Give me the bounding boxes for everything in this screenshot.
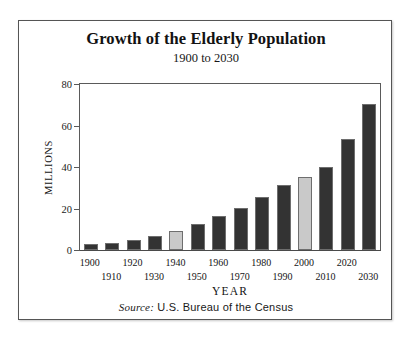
bar-1910 xyxy=(105,243,119,250)
source-label: Source: xyxy=(119,301,154,313)
x-axis-tick-label: 2010 xyxy=(315,271,335,282)
x-axis-title: YEAR xyxy=(79,285,381,297)
bar-2010 xyxy=(319,167,333,250)
x-axis-tick-label: 1980 xyxy=(251,257,271,268)
chart-subtitle: 1900 to 2030 xyxy=(19,51,393,66)
x-axis-tick-label: 1950 xyxy=(187,271,207,282)
y-axis-tick-label: 20 xyxy=(62,203,73,214)
x-axis-tick-label: 1970 xyxy=(230,271,250,282)
y-axis-title: MILLIONS xyxy=(41,83,55,251)
x-axis-tick-label: 1940 xyxy=(165,257,185,268)
bar-2030 xyxy=(362,104,376,250)
x-axis-tick-label: 1990 xyxy=(273,271,293,282)
y-axis-tick-label: 0 xyxy=(67,245,72,256)
x-axis-tick-label: 1930 xyxy=(144,271,164,282)
bar-1940 xyxy=(169,231,183,250)
chart-title: Growth of the Elderly Population xyxy=(19,29,393,49)
bar-2000 xyxy=(298,177,312,250)
y-axis-tick-label: 40 xyxy=(62,162,73,173)
bar-1960 xyxy=(212,216,226,250)
x-axis-tick-label: 1960 xyxy=(208,257,228,268)
x-axis-tick-label: 1920 xyxy=(123,257,143,268)
x-axis-tick-label: 1900 xyxy=(80,257,100,268)
x-axis-tick-label: 2020 xyxy=(337,257,357,268)
x-axis-tick-label: 2000 xyxy=(294,257,314,268)
bar-1900 xyxy=(84,244,98,250)
bar-1920 xyxy=(127,240,141,250)
x-axis-tick-label: 1910 xyxy=(101,271,121,282)
y-axis-tick xyxy=(74,250,80,251)
bar-1970 xyxy=(234,208,248,250)
source-text: U.S. Bureau of the Census xyxy=(157,301,293,313)
bar-1990 xyxy=(277,185,291,250)
y-axis-tick-label: 60 xyxy=(62,120,73,131)
bar-1980 xyxy=(255,197,269,250)
y-axis-title-label: MILLIONS xyxy=(43,140,54,195)
plot-area: 020406080 xyxy=(79,83,381,251)
bar-2020 xyxy=(341,139,355,250)
bar-1930 xyxy=(148,236,162,250)
y-axis-tick-label: 80 xyxy=(62,79,73,90)
source-note: Source: U.S. Bureau of the Census xyxy=(19,301,393,313)
bars-layer xyxy=(80,84,380,250)
figure-frame: Growth of the Elderly Population 1900 to… xyxy=(18,20,392,320)
bar-1950 xyxy=(191,224,205,250)
x-axis-tick-label: 2030 xyxy=(358,271,378,282)
